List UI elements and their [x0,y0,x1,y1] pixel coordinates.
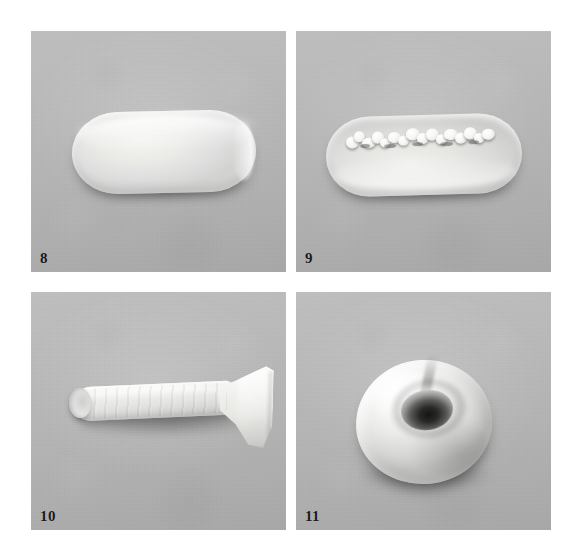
specimen-elongated-slab [71,109,257,195]
panel-figure-9[interactable]: 9 [296,31,551,272]
panel-figure-8[interactable]: 8 [31,31,286,272]
panel-figure-10[interactable]: 10 [31,292,286,530]
figure-label-9: 9 [305,251,313,266]
figure-label-8: 8 [40,251,48,266]
figure-label-10: 10 [40,509,56,524]
figure-label-11: 11 [305,509,320,524]
specimen-plate: 8 [0,0,587,560]
specimen-granular-crest [344,124,499,155]
panel-figure-11[interactable]: 11 [296,292,551,530]
